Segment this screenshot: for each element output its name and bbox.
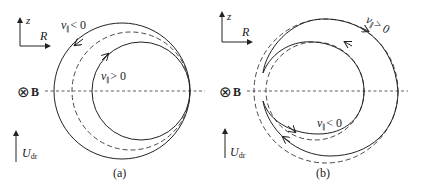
inner-velocity-label: v∥> 0 [101,69,126,84]
panel-caption: (b) [316,166,330,180]
inner-velocity-label: v∥< 0 [317,116,342,131]
outer-direction-arrow [75,39,83,45]
inner-bottom-arrow [288,126,295,132]
drift-label: Udr [230,145,246,160]
orbit-diagram: z R ⊗ B Udr v∥< 0 v∥> 0 (a) z R ⊗ B [0,0,421,191]
r-axis-label: R [39,29,48,43]
inner-orbit [263,42,364,134]
panel-a: z R ⊗ B Udr v∥< 0 v∥> 0 (a) [16,14,205,180]
axes-indicator: z R [222,10,250,42]
outer-top-arrow [360,27,368,31]
outer-bottom-arrow [283,137,290,142]
panel-b: z R ⊗ B Udr v∥> 0 v∥< 0 (b) [219,10,408,180]
outer-orbit [263,19,398,156]
z-axis-label: z [25,14,31,26]
drift-label: Udr [22,146,38,161]
field-label: B [31,85,39,99]
outer-velocity-label: v∥> 0 [363,12,392,37]
field-into-page-icon: ⊗ [17,84,30,100]
inner-direction-arrow [102,54,108,60]
axes-indicator: z R [20,14,48,46]
field-into-page-icon: ⊗ [219,84,232,100]
r-axis-label: R [241,25,250,39]
panel-caption: (a) [113,166,126,180]
z-axis-label: z [226,10,232,22]
outer-velocity-label: v∥< 0 [61,18,86,33]
field-label: B [233,85,241,99]
inner-top-arrow [345,42,352,46]
